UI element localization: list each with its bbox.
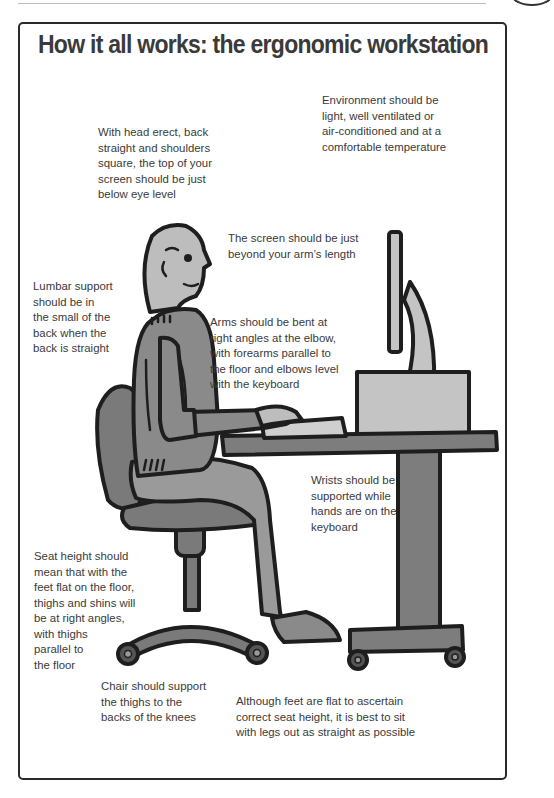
note-chair-support: Chair should support the thighs to the b… (101, 679, 206, 726)
note-arms: Arms should be bent at right angles at t… (210, 315, 339, 393)
note-lumbar-support: Lumbar support should be in the small of… (33, 279, 113, 357)
note-feet: Although feet are flat to ascertain corr… (236, 694, 415, 741)
note-wrists: Wrists should be supported while hands a… (311, 473, 397, 535)
note-screen-distance: The screen should be just beyond your ar… (228, 231, 358, 262)
top-rule (18, 3, 486, 4)
page-corner-tab (510, 0, 554, 6)
page-title: How it all works: the ergonomic workstat… (38, 30, 488, 59)
note-environment: Environment should be light, well ventil… (322, 93, 446, 155)
note-head-position: With head erect, back straight and shoul… (98, 125, 212, 203)
note-seat-height: Seat height should mean that with the fe… (34, 549, 135, 673)
